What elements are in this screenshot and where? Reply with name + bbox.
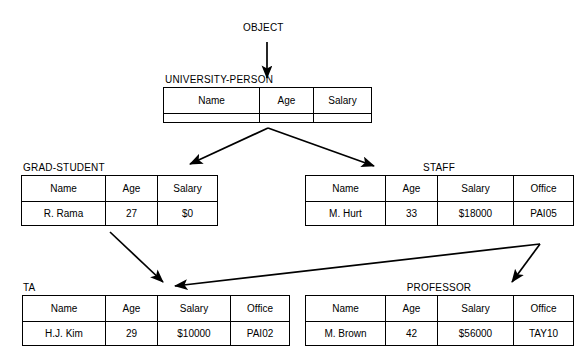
column-header: Office bbox=[231, 296, 290, 322]
edge-staff-to-ta bbox=[175, 244, 540, 286]
edge-staff-to-professor bbox=[512, 244, 540, 282]
column-header: Salary bbox=[314, 88, 372, 114]
node-ta-label: TA bbox=[23, 282, 290, 293]
edge-grad-student-to-ta bbox=[110, 232, 163, 282]
table-cell: $18000 bbox=[438, 202, 514, 226]
column-header: Age bbox=[386, 176, 438, 202]
column-header: Age bbox=[106, 296, 158, 322]
table-cell bbox=[164, 114, 260, 123]
edge-university-person-to-grad-student bbox=[190, 128, 268, 164]
table-row: H.J. Kim 29 $10000 PAI02 bbox=[23, 322, 290, 346]
table-cell bbox=[260, 114, 314, 123]
table-staff: Name Age Salary Office M. Hurt 33 $18000… bbox=[305, 175, 574, 226]
table-row: M. Brown 42 $56000 TAY10 bbox=[306, 322, 574, 346]
table-header-row: Name Age Salary Office bbox=[306, 176, 574, 202]
node-ta: TA Name Age Salary Office H.J. Kim 29 $1… bbox=[22, 282, 290, 346]
node-professor-label: PROFESSOR bbox=[305, 282, 573, 293]
table-row: M. Hurt 33 $18000 PAI05 bbox=[306, 202, 574, 226]
table-cell: H.J. Kim bbox=[23, 322, 106, 346]
column-header: Salary bbox=[438, 296, 514, 322]
column-header: Office bbox=[514, 296, 574, 322]
table-cell: M. Brown bbox=[306, 322, 386, 346]
column-header: Age bbox=[106, 176, 158, 202]
node-staff: STAFF Name Age Salary Office M. Hurt 33 … bbox=[305, 162, 574, 226]
column-header: Name bbox=[306, 296, 386, 322]
table-row: R. Rama 27 $0 bbox=[22, 202, 218, 226]
table-cell: $0 bbox=[158, 202, 218, 226]
node-grad-student-label: GRAD-STUDENT bbox=[23, 162, 218, 173]
table-cell: PAI02 bbox=[231, 322, 290, 346]
table-cell bbox=[314, 114, 372, 123]
table-header-row: Name Age Salary Office bbox=[23, 296, 290, 322]
column-header: Salary bbox=[438, 176, 514, 202]
table-cell: 42 bbox=[386, 322, 438, 346]
table-header-row: Name Age Salary bbox=[22, 176, 218, 202]
node-object-label: OBJECT bbox=[243, 22, 284, 33]
column-header: Name bbox=[164, 88, 260, 114]
node-grad-student: GRAD-STUDENT Name Age Salary R. Rama 27 … bbox=[21, 162, 218, 226]
table-cell: PAI05 bbox=[514, 202, 574, 226]
column-header: Name bbox=[22, 176, 106, 202]
table-header-row: Name Age Salary Office bbox=[306, 296, 574, 322]
table-university-person: Name Age Salary bbox=[163, 87, 372, 123]
table-cell: TAY10 bbox=[514, 322, 574, 346]
table-cell: 29 bbox=[106, 322, 158, 346]
table-professor: Name Age Salary Office M. Brown 42 $5600… bbox=[305, 295, 574, 346]
table-cell: $56000 bbox=[438, 322, 514, 346]
column-header: Age bbox=[260, 88, 314, 114]
column-header: Age bbox=[386, 296, 438, 322]
column-header: Name bbox=[23, 296, 106, 322]
table-row-empty bbox=[164, 114, 372, 123]
edge-university-person-to-staff bbox=[268, 128, 374, 166]
table-cell: 33 bbox=[386, 202, 438, 226]
class-hierarchy-diagram: OBJECT UNIVERSITY-PERSON Name Age Salary… bbox=[0, 0, 586, 364]
table-cell: R. Rama bbox=[22, 202, 106, 226]
node-staff-label: STAFF bbox=[305, 162, 573, 173]
table-cell: $10000 bbox=[158, 322, 231, 346]
column-header: Office bbox=[514, 176, 574, 202]
column-header: Salary bbox=[158, 176, 218, 202]
table-grad-student: Name Age Salary R. Rama 27 $0 bbox=[21, 175, 218, 226]
node-professor: PROFESSOR Name Age Salary Office M. Brow… bbox=[305, 282, 574, 346]
table-header-row: Name Age Salary bbox=[164, 88, 372, 114]
column-header: Salary bbox=[158, 296, 231, 322]
column-header: Name bbox=[306, 176, 386, 202]
table-ta: Name Age Salary Office H.J. Kim 29 $1000… bbox=[22, 295, 290, 346]
table-cell: M. Hurt bbox=[306, 202, 386, 226]
node-university-person-label: UNIVERSITY-PERSON bbox=[165, 74, 372, 85]
table-cell: 27 bbox=[106, 202, 158, 226]
node-university-person: UNIVERSITY-PERSON Name Age Salary bbox=[163, 74, 372, 123]
